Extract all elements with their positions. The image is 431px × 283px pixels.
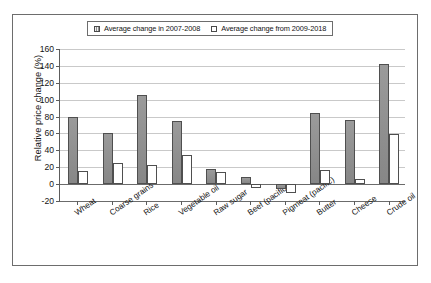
bar-series-2: [113, 163, 123, 184]
legend-item-series-2: Average change from 2009-2018: [211, 24, 326, 33]
plot-area: 160140120100806040200-20 WheatCoarse gra…: [59, 49, 405, 201]
y-tick-label: -20: [42, 196, 54, 206]
x-tick: [250, 201, 251, 205]
bar-group: Coarse grains: [95, 49, 130, 201]
legend-swatch-open: [211, 26, 217, 32]
bar-series-2: [355, 179, 365, 184]
x-tick: [285, 201, 286, 205]
x-tick: [112, 201, 113, 205]
x-tick: [146, 201, 147, 205]
bar-group: Wheat: [60, 49, 95, 201]
y-tick-label: 0: [49, 179, 54, 189]
bar-series-2: [251, 184, 261, 188]
bar-series-1: [310, 113, 320, 184]
bar-group: Butter: [302, 49, 337, 201]
bar-series-2: [320, 170, 330, 184]
y-tick-label: 120: [40, 78, 54, 88]
bar-series-1: [103, 133, 113, 185]
x-tick: [319, 201, 320, 205]
x-axis-label: Rice: [142, 201, 161, 218]
y-tick-label: 40: [44, 145, 54, 155]
bar-series-1: [241, 177, 251, 185]
x-tick: [181, 201, 182, 205]
y-tick-label: 20: [44, 162, 54, 172]
y-tick-label: 80: [44, 112, 54, 122]
x-tick: [354, 201, 355, 205]
bar-series-2: [78, 171, 88, 185]
bar-series-1: [137, 95, 147, 184]
y-tick-label: 140: [40, 61, 54, 71]
y-axis-title: Relative price change (%): [33, 38, 43, 178]
bar-group: Crude oil: [371, 49, 406, 201]
bar-group: Rice: [129, 49, 164, 201]
bar-group: Beef (pacific): [233, 49, 268, 201]
bar-series-2: [286, 184, 296, 193]
legend-label-series-2: Average change from 2009-2018: [221, 24, 326, 33]
y-tick-label: 100: [40, 95, 54, 105]
bar-series-1: [345, 120, 355, 184]
legend-swatch-hatched: [94, 26, 100, 32]
legend-label-series-1: Average change in 2007-2008: [104, 24, 200, 33]
x-tick: [389, 201, 390, 205]
x-tick: [77, 201, 78, 205]
bar-series-2: [389, 134, 399, 184]
bar-series-2: [182, 155, 192, 185]
chart-legend: Average change in 2007-2008 Average chan…: [87, 21, 333, 36]
bar-group: Cheese: [337, 49, 372, 201]
bar-series-1: [379, 64, 389, 184]
bar-series-1: [206, 169, 216, 184]
x-tick: [216, 201, 217, 205]
bar-group: Raw sugar: [198, 49, 233, 201]
y-tick-label: 60: [44, 128, 54, 138]
bar-series-1: [276, 184, 286, 189]
bar-series-2: [216, 172, 226, 184]
bar-group: Pigmeat (pacific): [268, 49, 303, 201]
bar-series-group: WheatCoarse grainsRiceVegetable oilRaw s…: [60, 49, 405, 201]
bar-series-2: [147, 165, 157, 184]
legend-item-series-1: Average change in 2007-2008: [94, 24, 200, 33]
y-tick-label: 160: [40, 44, 54, 54]
chart-frame: Average change in 2007-2008 Average chan…: [12, 14, 418, 266]
y-tick--20: [56, 201, 60, 202]
bar-series-1: [68, 117, 78, 184]
bar-group: Vegetable oil: [164, 49, 199, 201]
bar-series-1: [172, 121, 182, 184]
